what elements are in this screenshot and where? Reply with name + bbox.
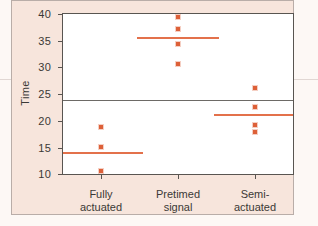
data-point (253, 105, 257, 109)
figure-root: Time 10 15 20 25 30 35 40 Fully actuated (0, 0, 318, 226)
plot-area: 10 15 20 25 30 35 40 Fully actuated (62, 13, 294, 175)
y-tick-label-30: 30 (38, 61, 51, 73)
y-tick-30: 30 (58, 67, 63, 68)
y-tick-label-35: 35 (38, 35, 51, 47)
y-tick-label-10: 10 (38, 168, 51, 180)
x-tick-fully-actuated: Fully actuated (101, 174, 102, 179)
data-point (176, 62, 180, 66)
y-tick-label-15: 15 (38, 142, 51, 154)
x-tick-label-line2: signal (164, 201, 193, 213)
y-tick-40: 40 (58, 14, 63, 15)
x-tick-label-line1: Pretimed (156, 188, 200, 200)
group-mean-line-fully-actuated (63, 152, 143, 154)
x-tick-label-pretimed-signal: Pretimed signal (156, 188, 200, 214)
x-tick-pretimed-signal: Pretimed signal (178, 174, 179, 179)
data-point (176, 42, 180, 46)
data-point (253, 130, 257, 134)
x-tick-label-semi-actuated: Semi- actuated (234, 188, 276, 214)
y-tick-10: 10 (58, 174, 63, 175)
x-tick-label-line2: actuated (234, 201, 276, 213)
data-point (99, 169, 103, 173)
y-tick-label-25: 25 (38, 88, 51, 100)
x-tick-label-fully-actuated: Fully actuated (80, 188, 122, 214)
y-tick-label-20: 20 (38, 115, 51, 127)
data-point (176, 27, 180, 31)
y-tick-15: 15 (58, 148, 63, 149)
x-tick-label-line1: Semi- (241, 188, 270, 200)
data-point (253, 123, 257, 127)
y-tick-25: 25 (58, 94, 63, 95)
x-tick-label-line1: Fully (89, 188, 112, 200)
data-point (176, 15, 180, 19)
x-tick-label-line2: actuated (80, 201, 122, 213)
data-point (99, 145, 103, 149)
y-tick-label-40: 40 (38, 8, 51, 20)
x-tick-semi-actuated: Semi- actuated (255, 174, 256, 179)
y-tick-35: 35 (58, 41, 63, 42)
data-point (99, 125, 103, 129)
group-mean-line-semi-actuated (214, 114, 293, 116)
group-mean-line-pretimed-signal (137, 37, 219, 39)
y-tick-20: 20 (58, 121, 63, 122)
y-axis-title: Time (19, 80, 31, 105)
grand-mean-line (63, 100, 293, 101)
data-point (253, 86, 257, 90)
